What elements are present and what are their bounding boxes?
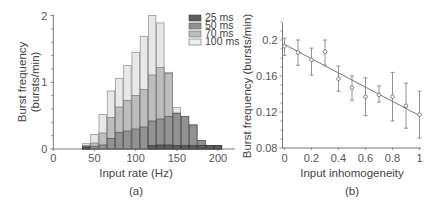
y-tick-label: 2 (41, 10, 47, 22)
x-tick-label: 0 (281, 152, 287, 164)
data-point (296, 51, 300, 55)
data-point (337, 77, 341, 81)
bar-25ms-150hz (173, 146, 180, 149)
panel-b-tick-labels: 0.080.120.160.200.20.40.60.81 (256, 34, 422, 164)
legend-swatch-70ms (189, 31, 201, 37)
panel-b-data-points (283, 38, 422, 138)
y-tick-label: 0.08 (256, 142, 277, 154)
x-tick-label: 0.4 (331, 152, 346, 164)
bar-25ms-170hz (190, 146, 197, 149)
data-point (323, 50, 327, 54)
bar-50ms-90hz (124, 131, 131, 149)
y-tick-label: 0 (41, 143, 47, 155)
bar-25ms-190hz (206, 146, 213, 149)
bar-50ms-120hz (148, 121, 155, 149)
x-tick-label: 0.6 (358, 152, 373, 164)
bar-50ms-160hz (181, 116, 188, 149)
panel-a-caption: (a) (129, 185, 143, 197)
panel-a-histogram: 012050100150200 Input rate (Hz) Burst fr… (16, 10, 239, 197)
bar-50ms-100hz (132, 129, 139, 149)
bar-50ms-140hz (165, 116, 172, 149)
panel-a-x-axis-label: Input rate (Hz) (99, 167, 173, 179)
bar-50ms-80hz (115, 132, 122, 149)
x-tick-label: 1 (416, 152, 422, 164)
x-tick-label: 100 (126, 152, 144, 164)
y-tick-label: 0.16 (256, 70, 277, 82)
bar-50ms-150hz (173, 114, 180, 149)
legend-swatch-50ms (189, 23, 201, 29)
data-point (391, 95, 395, 99)
bar-25ms-200hz (214, 146, 221, 149)
x-tick-label: 200 (209, 152, 227, 164)
data-point (350, 86, 354, 90)
x-tick-label: 0.2 (304, 152, 319, 164)
y-label-line1: Burst frequency (16, 41, 28, 122)
data-point (404, 104, 408, 108)
bar-50ms-130hz (157, 119, 164, 149)
bar-50ms-50hz (91, 146, 98, 149)
legend-swatch-25ms (189, 15, 201, 21)
data-point (310, 58, 314, 62)
y-tick-label: 0.12 (256, 106, 277, 118)
legend-label-100ms: 100 ms (205, 35, 239, 47)
x-tick-label: 0.8 (385, 152, 400, 164)
panel-b-axes (280, 22, 422, 150)
bar-25ms-160hz (181, 146, 188, 149)
data-point (283, 45, 287, 49)
x-tick-label: 50 (88, 152, 100, 164)
bar-25ms-180hz (198, 146, 205, 149)
bar-50ms-60hz (99, 145, 106, 149)
panel-b-caption: (b) (345, 185, 359, 197)
legend: 25 ms 50 ms 70 ms 100 ms (189, 11, 239, 47)
bar-25ms-120hz (148, 146, 155, 149)
panel-b-y-axis-label: Burst frequency (bursts/min) (241, 14, 253, 159)
panel-b-x-axis-label: Input inhomogeneity (300, 167, 404, 179)
bar-50ms-70hz (107, 138, 114, 149)
x-tick-label: 0 (50, 152, 56, 164)
y-tick-label: 0.2 (262, 34, 277, 46)
legend-swatch-100ms (189, 39, 201, 45)
data-point (364, 95, 368, 99)
figure: 012050100150200 Input rate (Hz) Burst fr… (0, 0, 438, 210)
bar-25ms-130hz (157, 145, 164, 149)
x-tick-label: 150 (168, 152, 186, 164)
panel-b-scatter: 0.080.120.160.200.20.40.60.81 Input inho… (241, 14, 423, 197)
data-point (418, 113, 422, 117)
data-point (377, 93, 381, 97)
bar-50ms-110hz (140, 127, 147, 149)
y-label-line2: (bursts/min) (29, 51, 41, 112)
panel-a-y-axis-label: Burst frequency (bursts/min) (16, 41, 41, 122)
bar-25ms-140hz (165, 145, 172, 149)
y-tick-label: 1 (41, 76, 47, 88)
